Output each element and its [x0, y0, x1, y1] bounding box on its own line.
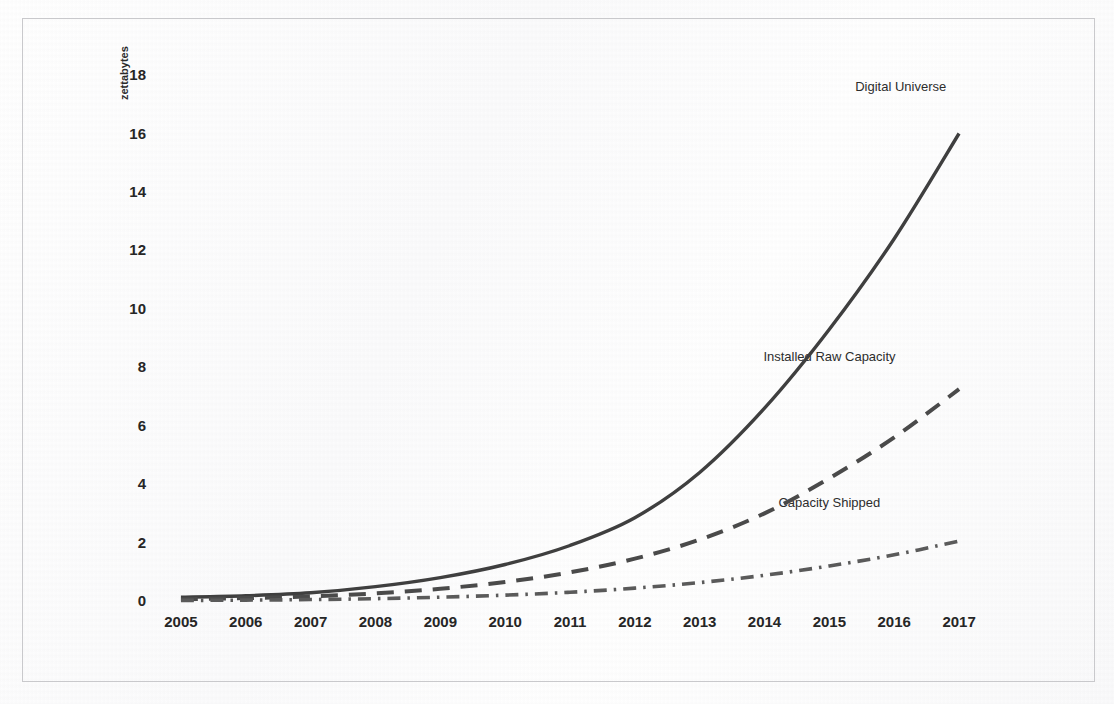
- series-line-installed-raw-capacity: [181, 389, 959, 599]
- chart-figure: zettabytes 024681012141618 2005200620072…: [0, 0, 1114, 704]
- series-paths-group: [181, 134, 959, 601]
- series-line-capacity-shipped: [181, 541, 959, 600]
- series-line-digital-universe: [181, 134, 959, 598]
- plot-area: [0, 0, 1114, 704]
